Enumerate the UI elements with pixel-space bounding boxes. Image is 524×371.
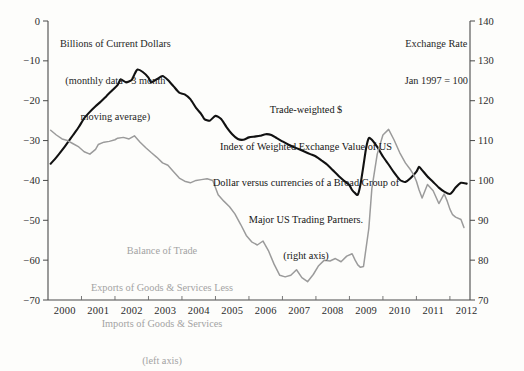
x-axis-ticklabel: 2006 — [255, 305, 277, 316]
left-axis-header-line3: moving average) — [60, 111, 171, 123]
gray-series-annotation-line1: Balance of Trade — [82, 245, 242, 257]
left-axis-ticklabel: −20 — [24, 95, 40, 106]
left-axis-header: Billions of Current Dollars (monthly dat… — [60, 14, 171, 148]
right-axis-ticklabel: 70 — [478, 295, 489, 306]
right-axis-ticklabel: 100 — [478, 175, 494, 186]
right-axis-ticklabel: 120 — [478, 95, 494, 106]
x-axis-ticklabel: 2009 — [355, 305, 377, 316]
left-axis-ticklabel: −30 — [24, 135, 40, 146]
x-axis-ticklabel: 2011 — [422, 305, 443, 316]
gray-series-annotation: Balance of Trade Exports of Goods & Serv… — [82, 221, 242, 371]
x-axis-ticklabel: 2012 — [456, 305, 478, 316]
black-series-annotation-line3: Dollar versus currencies of a Broad Grou… — [196, 177, 416, 189]
left-axis-ticklabel: −10 — [24, 55, 40, 66]
x-axis-ticklabel: 2008 — [322, 305, 344, 316]
right-axis-ticklabel: 90 — [478, 215, 489, 226]
x-axis-ticklabel: 2010 — [389, 305, 411, 316]
right-axis-ticklabel: 140 — [478, 16, 494, 27]
black-series-annotation-line1: Trade-weighted $ — [196, 104, 416, 116]
right-axis-ticklabel: 80 — [478, 255, 489, 266]
right-axis-ticklabel: 110 — [478, 135, 493, 146]
black-series-annotation-line2: Index of Weighted Exchange Value of US — [196, 141, 416, 153]
x-axis-ticklabel: 2007 — [288, 305, 310, 316]
x-axis-ticklabel: 2000 — [54, 305, 76, 316]
left-axis-ticklabel: −60 — [24, 255, 40, 266]
left-axis-header-line1: Billions of Current Dollars — [60, 38, 171, 50]
left-axis-ticklabel: −50 — [24, 215, 40, 226]
left-axis-header-line2: (monthly data - 3 month — [60, 75, 171, 87]
gray-series-annotation-line4: (left axis) — [82, 355, 242, 367]
gray-series-annotation-line2: Exports of Goods & Services Less — [82, 282, 242, 294]
left-axis-ticklabel: 0 — [35, 16, 40, 27]
gray-series-annotation-line3: Imports of Goods & Services — [82, 318, 242, 330]
left-axis-ticklabel: −70 — [24, 295, 40, 306]
left-axis-ticklabel: −40 — [24, 175, 40, 186]
right-axis-header-line1: Exchange Rate — [405, 38, 468, 50]
right-axis-ticklabel: 130 — [478, 55, 494, 66]
